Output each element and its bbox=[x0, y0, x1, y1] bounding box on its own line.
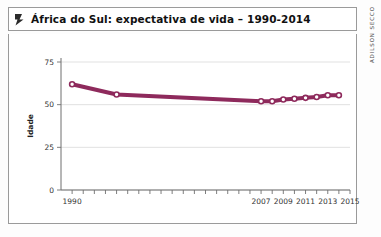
series-line bbox=[72, 84, 339, 101]
y-axis-ticks: 0255075 bbox=[44, 58, 61, 195]
chart-figure: África do Sul: expectativa de vida – 199… bbox=[0, 0, 381, 237]
data-point-marker bbox=[114, 92, 119, 97]
y-tick-label: 0 bbox=[49, 186, 54, 195]
data-point-marker bbox=[292, 96, 297, 101]
y-axis-title: Idade bbox=[26, 114, 35, 138]
gridlines bbox=[61, 62, 350, 190]
data-point-marker bbox=[259, 99, 264, 104]
x-tick-label: 2011 bbox=[296, 197, 315, 206]
y-tick-label: 75 bbox=[44, 58, 54, 67]
axis-titles: Idade bbox=[26, 114, 35, 138]
y-tick-label: 50 bbox=[44, 100, 54, 109]
x-tick-label: 2015 bbox=[340, 197, 359, 206]
axis-lines bbox=[61, 58, 350, 190]
x-tick-label: 1990 bbox=[63, 197, 82, 206]
data-point-marker bbox=[270, 99, 275, 104]
x-tick-label: 2007 bbox=[252, 197, 271, 206]
data-point-marker bbox=[70, 82, 75, 87]
data-point-marker bbox=[336, 93, 341, 98]
x-tick-label: 2013 bbox=[318, 197, 337, 206]
data-point-marker bbox=[281, 97, 286, 102]
x-tick-label: 2009 bbox=[274, 197, 293, 206]
y-tick-label: 25 bbox=[44, 143, 54, 152]
data-point-marker bbox=[325, 93, 330, 98]
data-point-marker bbox=[303, 95, 308, 100]
x-axis-ticks: 199020072009201120132015 bbox=[63, 190, 360, 206]
data-series bbox=[70, 82, 342, 104]
data-point-marker bbox=[314, 94, 319, 99]
line-chart: 0255075 199020072009201120132015 Idade bbox=[0, 0, 381, 237]
